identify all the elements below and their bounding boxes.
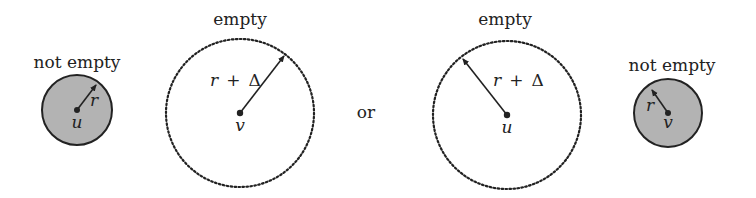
radius-label-r-plus-delta: r + Δ [493,70,544,90]
panel-right-empty: empty r + Δ u [433,9,581,189]
diagram-canvas: not empty r u empty r + Δ v or empty r +… [0,0,756,198]
center-label-v: v [235,115,245,135]
radius-label-r: r [646,95,655,115]
center-label-u: u [502,117,513,137]
not-empty-label: not empty [629,55,716,75]
panel-left-not-empty: not empty r u [34,52,121,145]
panel-right-not-empty: not empty r v [629,55,716,147]
or-separator: or [357,102,376,122]
empty-label: empty [478,9,532,29]
not-empty-label: not empty [34,52,121,72]
radius-label-r: r [90,90,99,110]
diagram-svg: not empty r u empty r + Δ v or empty r +… [0,0,756,198]
radius-arrow-r-plus-delta [240,56,284,113]
center-label-v: v [663,112,673,132]
panel-left-empty: empty r + Δ v [166,9,314,187]
radius-label-r-plus-delta: r + Δ [210,70,261,90]
empty-label: empty [213,9,267,29]
center-label-u: u [72,112,83,132]
